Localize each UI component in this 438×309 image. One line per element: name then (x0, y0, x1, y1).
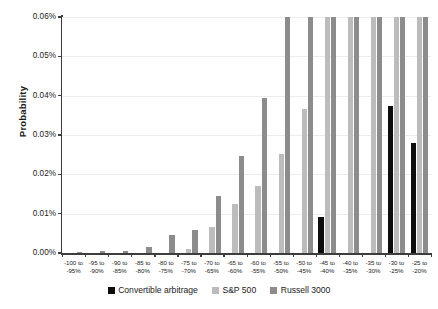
legend-swatch-icon (212, 287, 219, 294)
bar (255, 186, 260, 253)
bar (186, 249, 191, 253)
x-axis-tick-label-line: -20% (404, 267, 434, 275)
bar-group (177, 17, 200, 253)
x-axis-tick-mark (62, 253, 63, 257)
y-axis-tick-label: 0.06% (0, 12, 56, 21)
legend-item: Convertible arbitrage (108, 285, 198, 295)
bar (279, 154, 284, 253)
bar (262, 98, 267, 253)
probability-bar-chart: Probability 0.00%0.01%0.02%0.03%0.04%0.0… (0, 0, 438, 309)
y-axis-title: Probability (17, 52, 28, 172)
y-axis-tick-mark (58, 16, 62, 17)
legend-swatch-icon (270, 287, 277, 294)
chart-legend: Convertible arbitrageS&P 500Russell 3000 (0, 285, 438, 295)
plot-area: 0.00%0.01%0.02%0.03%0.04%0.05%0.06% (62, 17, 431, 253)
x-axis-tick-mark (247, 253, 248, 257)
bar-group (293, 17, 316, 253)
legend-label: S&P 500 (222, 285, 256, 295)
x-axis-tick-label-line: -25 to (404, 259, 434, 267)
bar (354, 17, 359, 253)
bar (377, 17, 382, 253)
bar-group (154, 17, 177, 253)
legend-label: Russell 3000 (281, 285, 331, 295)
bar (388, 106, 393, 254)
x-axis-tick-mark (431, 253, 432, 257)
bar (100, 251, 105, 253)
bar (216, 196, 221, 253)
x-axis-tick-mark (408, 253, 409, 257)
bar (146, 247, 151, 253)
y-axis-tick-label: 0.00% (0, 248, 56, 257)
bar (209, 227, 214, 253)
bar-group (108, 17, 131, 253)
bar-group (85, 17, 108, 253)
legend-label: Convertible arbitrage (118, 285, 198, 295)
x-axis-tick-mark (108, 253, 109, 257)
x-axis-tick-mark (177, 253, 178, 257)
y-axis-tick-label: 0.05% (0, 51, 56, 60)
y-axis-tick-label: 0.04% (0, 91, 56, 100)
y-axis-tick-label: 0.02% (0, 169, 56, 178)
bar-group (131, 17, 154, 253)
y-axis-tick-mark (58, 56, 62, 57)
bar (239, 156, 244, 253)
bar (308, 17, 313, 253)
y-axis-tick-mark (58, 213, 62, 214)
bar-group (362, 17, 385, 253)
bar (400, 17, 405, 253)
bar (192, 230, 197, 253)
bar (325, 17, 330, 253)
x-axis-tick-mark (131, 253, 132, 257)
legend-item: S&P 500 (212, 285, 256, 295)
bar (348, 17, 353, 253)
bar-group (247, 17, 270, 253)
bar (411, 143, 416, 253)
x-axis-tick-mark (85, 253, 86, 257)
bar-group (408, 17, 431, 253)
y-axis-tick-mark (58, 134, 62, 135)
x-axis-tick-mark (316, 253, 317, 257)
bar (331, 17, 336, 253)
bar-group (339, 17, 362, 253)
bar-group (223, 17, 246, 253)
x-axis-tick-mark (270, 253, 271, 257)
y-axis-tick-mark (58, 252, 62, 253)
bar (394, 17, 399, 253)
legend-item: Russell 3000 (270, 285, 330, 295)
bar-group (316, 17, 339, 253)
x-axis-tick-mark (339, 253, 340, 257)
x-axis-tick-mark (223, 253, 224, 257)
bar (77, 252, 82, 253)
y-axis-tick-label: 0.03% (0, 130, 56, 139)
bar (371, 17, 376, 253)
bar (302, 109, 307, 253)
y-axis-tick-mark (58, 174, 62, 175)
bar (169, 235, 174, 253)
bar (123, 251, 128, 253)
x-axis-tick-mark (154, 253, 155, 257)
y-axis-tick-label: 0.01% (0, 209, 56, 218)
bar (423, 17, 428, 253)
x-axis-tick-mark (385, 253, 386, 257)
x-axis-tick-mark (200, 253, 201, 257)
bar-group (200, 17, 223, 253)
bar (232, 204, 237, 253)
x-axis-tick-mark (293, 253, 294, 257)
bar (417, 17, 422, 253)
x-axis-tick-mark (362, 253, 363, 257)
bar-group (385, 17, 408, 253)
legend-swatch-icon (108, 287, 115, 294)
bar (318, 217, 323, 253)
bar-group (62, 17, 85, 253)
bar-group (270, 17, 293, 253)
y-axis-tick-mark (58, 95, 62, 96)
x-axis-tick-label: -25 to-20% (404, 259, 434, 274)
bar (285, 17, 290, 253)
